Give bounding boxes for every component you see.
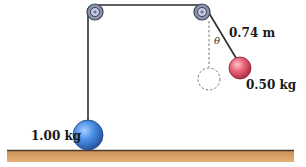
floor [7,150,294,162]
pulley-diagram: θ 0.74 m 0.50 kg 1.00 kg [0,0,306,167]
equilibrium-reference [198,21,220,90]
rope [88,5,236,121]
ball-right-mass [229,57,251,79]
angle-label: θ [214,35,220,46]
pulley-left [87,4,103,20]
pulley-right [194,4,210,20]
mass-right-label: 0.50 kg [246,78,297,92]
string-length-label: 0.74 m [229,26,275,40]
mass-left-label: 1.00 kg [31,129,82,143]
dashed-ball-outline [198,68,220,90]
